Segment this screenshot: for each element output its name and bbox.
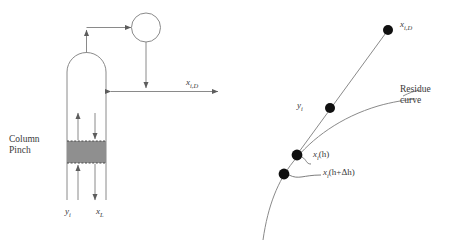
distillate-subscript: i,D [190,82,198,89]
liquid-point-h-label: xi(h) [313,149,329,161]
column-pinch-label: Column Pinch [9,134,40,156]
column-pinch-line2: Pinch [9,145,40,156]
vapor-point-marker [325,103,335,113]
residue-curve-line1: Residue [400,84,431,95]
liquid-stream-subscript: L [100,211,104,218]
figure-canvas: Column Pinch xi,D yi xL xi,D yi xi(h) xi… [0,0,456,247]
liquid-point-hdh-argument: (h+Δh) [329,167,355,177]
condenser [132,13,161,42]
liquid-point-h-argument: (h) [319,149,330,159]
column-pinch-line1: Column [9,134,40,145]
vapor-point-subscript: i [301,105,303,112]
liquid-point-h-marker [292,150,303,161]
vapor-stream-subscript: i [69,211,71,218]
distillate-label: xi,D [186,77,198,89]
residue-curve-line2: curve [400,95,431,106]
liquid-point-hdh-marker [279,169,290,180]
leader-xi-h [302,157,311,164]
pinch-zone [67,141,106,163]
leader-xi-hdh [289,175,321,177]
vapor-stream-label: yi [65,206,71,218]
vapor-line [87,28,132,54]
liquid-point-hdh-label: xi(h+Δh) [323,167,355,179]
tie-line [296,30,388,156]
distillate-point-subscript: i,D [404,24,412,31]
distillate-point-label: xi,D [400,19,412,31]
vapor-point-label: yi [297,100,303,112]
residue-curve-label: Residue curve [400,84,431,106]
distillate-point-marker [383,25,393,35]
liquid-stream-label: xL [96,206,104,218]
column-body [67,53,106,200]
